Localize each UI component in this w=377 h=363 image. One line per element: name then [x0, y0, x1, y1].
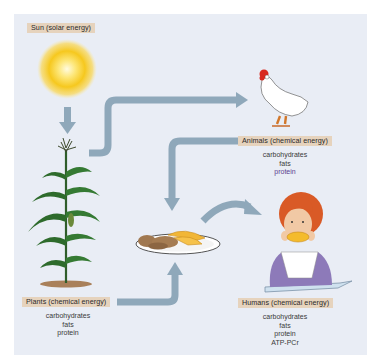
plants-nutrient-list: carbohydrates fats protein — [28, 312, 108, 338]
arrow-food-to-humans — [203, 199, 262, 221]
arrow-sun-to-plants — [59, 107, 76, 134]
plants-label: Plants (chemical energy) — [22, 297, 110, 307]
humans-item-protein: protein — [245, 330, 325, 339]
animals-item-protein: protein — [245, 168, 325, 177]
arrow-animals-to-food — [164, 141, 238, 211]
animals-item-fats: fats — [245, 160, 325, 169]
humans-label: Humans (chemical energy) — [238, 298, 333, 308]
sun-label: Sun (solar energy) — [27, 23, 95, 33]
humans-item-fats: fats — [245, 322, 325, 331]
plants-item-protein: protein — [28, 329, 108, 338]
child-eating-icon — [265, 192, 352, 292]
animals-label: Animals (chemical energy) — [238, 136, 332, 146]
animals-item-carbohydrates: carbohydrates — [245, 151, 325, 160]
arrow-plants-to-food — [117, 262, 183, 302]
humans-item-atp-pcr: ATP-PCr — [245, 339, 325, 348]
humans-item-carbohydrates: carbohydrates — [245, 313, 325, 322]
diagram-artwork — [0, 0, 377, 363]
plants-item-carbohydrates: carbohydrates — [28, 312, 108, 321]
sun-icon — [37, 39, 97, 99]
corn-plant-icon — [28, 138, 100, 288]
plate-of-food-icon — [136, 231, 220, 254]
animals-nutrient-list: carbohydrates fats protein — [245, 151, 325, 177]
chicken-icon — [260, 70, 309, 127]
humans-nutrient-list: carbohydrates fats protein ATP-PCr — [245, 313, 325, 347]
plants-item-fats: fats — [28, 321, 108, 330]
